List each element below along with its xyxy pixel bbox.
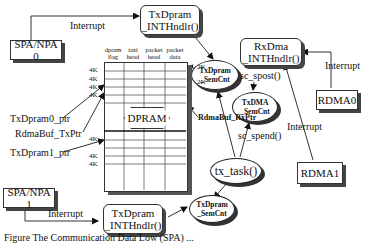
dpram-col-flag: dpram flag <box>102 46 124 60</box>
size-label: 4K <box>89 75 98 83</box>
dpram-col-packet-data: packet data <box>163 46 187 60</box>
figure-caption: Figure The Communication Data Low (SPA) … <box>4 232 194 243</box>
rdmabuf-txptr-label: RdmaBuf_TxPtr <box>15 128 82 139</box>
size-label-right: 2K <box>197 78 206 86</box>
size-label: 4K <box>89 83 98 91</box>
size-label-right: 2K <box>197 63 206 71</box>
txdpram0-ptr-label: TxDpram0_ptr <box>10 113 70 124</box>
dpram-title-text: DPRAM <box>127 112 166 124</box>
size-label: 4K <box>89 135 98 143</box>
size-label: 4K <box>89 91 98 99</box>
dpram-title: DPRAM <box>124 107 170 129</box>
size-label: 4K <box>89 66 98 74</box>
txdpram1-ptr-label: TxDpram1_ptr <box>10 147 70 158</box>
size-label: 4K <box>89 152 98 160</box>
size-label: 4K <box>89 160 98 168</box>
rdmabuf-rxptr-label: RdmaBuf_RxPtr <box>198 113 256 122</box>
dpram-col-taxi-head: taxi head <box>122 46 144 60</box>
